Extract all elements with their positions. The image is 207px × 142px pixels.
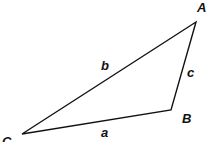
vertex-label-c: C — [2, 134, 12, 142]
side-label-c: c — [187, 65, 195, 80]
vertex-label-b: B — [182, 111, 191, 126]
vertex-label-a: A — [196, 0, 206, 15]
triangle-abc — [22, 22, 196, 134]
side-label-b: b — [101, 58, 109, 73]
triangle-diagram: A B C a b c — [0, 0, 207, 142]
side-label-a: a — [101, 125, 108, 140]
